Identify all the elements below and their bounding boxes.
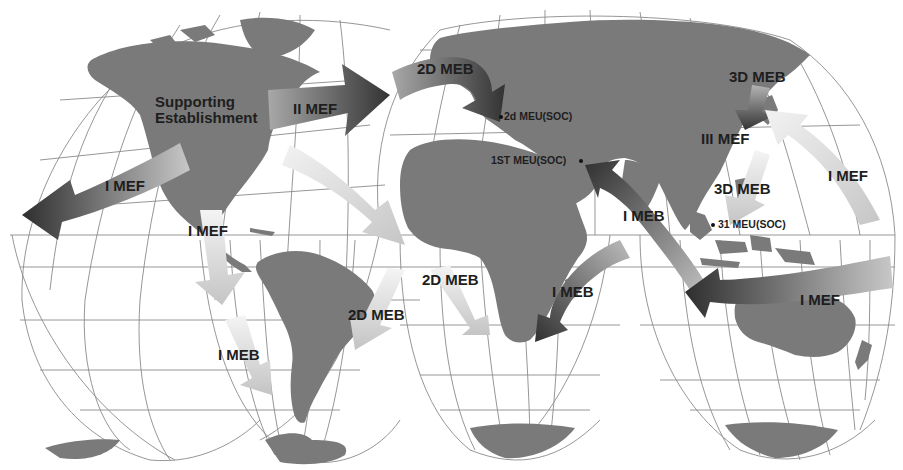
antarctica-east xyxy=(470,424,575,459)
label-i-mef-south: I MEF xyxy=(188,223,228,239)
label-2d-meb-atlantic-1: 2D MEB xyxy=(348,307,405,323)
arrow-light-atlantic xyxy=(282,145,405,245)
label-supporting-establishment: Supporting Establishment xyxy=(155,94,258,126)
label-3d-meb-south: 3D MEB xyxy=(714,181,771,197)
label-ii-mef: II MEF xyxy=(293,101,337,117)
label-i-meb-indian: I MEB xyxy=(623,208,665,224)
label-2d-meb-north-visible: 2D MEB xyxy=(417,61,474,77)
label-iii-mef: III MEF xyxy=(701,131,749,147)
location-dot-31-meu xyxy=(711,223,715,227)
label-establishment: Establishment xyxy=(155,110,258,126)
label-i-mef-west: I MEF xyxy=(105,178,145,194)
label-1st-meu-soc: 1ST MEU(SOC) xyxy=(491,155,566,166)
antarctica-west xyxy=(45,439,120,459)
label-3d-meb-north: 3D MEB xyxy=(729,69,786,85)
label-i-mef-pacific-south: I MEF xyxy=(800,292,840,308)
label-i-meb-south: I MEB xyxy=(218,347,260,363)
location-dot-2d-meu xyxy=(499,115,503,119)
label-2d-meb-atlantic-2: 2D MEB xyxy=(422,272,479,288)
label-supporting: Supporting xyxy=(155,94,258,110)
label-i-meb-africa: I MEB xyxy=(552,284,594,300)
label-31-meu-soc: 31 MEU(SOC) xyxy=(718,219,786,230)
label-i-mef-pacific-north: I MEF xyxy=(828,168,868,184)
location-dot-1st-meu xyxy=(579,159,583,163)
label-2d-meu-soc: 2d MEU(SOC) xyxy=(504,111,572,122)
